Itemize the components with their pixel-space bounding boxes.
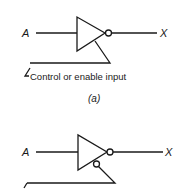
- output-bubble-a: [106, 30, 112, 36]
- output-label-b: X: [164, 146, 173, 158]
- inverter-triangle-b: [78, 135, 107, 170]
- tristate-diagram: A X Control or enable input (a) A X: [0, 0, 176, 190]
- pointer-arrow-b-icon: [24, 183, 27, 188]
- inverter-triangle-a: [77, 17, 105, 51]
- caption-a: (a): [88, 93, 100, 104]
- gate-b: [24, 135, 163, 188]
- gate-a: [25, 17, 157, 76]
- control-line-b: [27, 167, 115, 184]
- output-label-a: X: [159, 27, 168, 39]
- input-label-b: A: [21, 146, 29, 158]
- output-bubble-b: [107, 149, 113, 155]
- control-bubble-b: [94, 161, 100, 167]
- control-line-a: [30, 41, 110, 63]
- control-label: Control or enable input: [30, 71, 126, 82]
- input-label-a: A: [21, 27, 29, 39]
